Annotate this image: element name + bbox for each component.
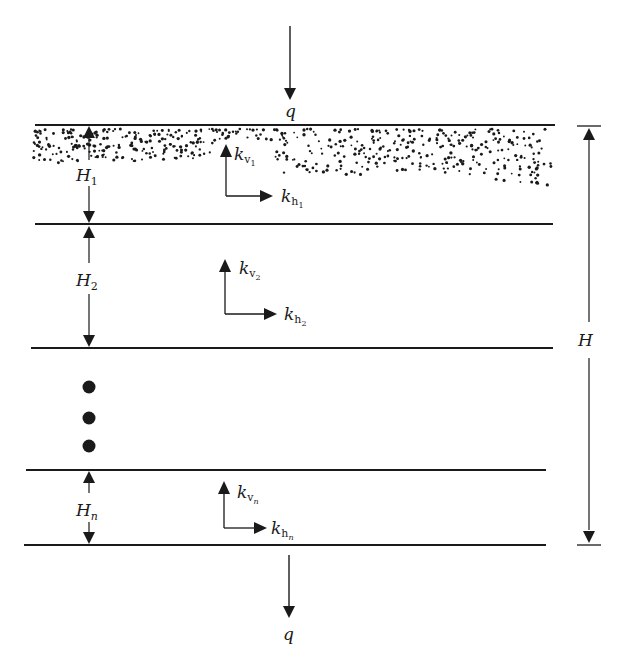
layern-thickness-label: Hn <box>75 500 98 523</box>
inflow-arrow <box>284 26 296 100</box>
layern-kh-label: khn <box>271 518 294 542</box>
outflow-label: q <box>283 624 294 644</box>
outflow-arrow <box>283 555 295 618</box>
inflow-label: q <box>285 101 296 121</box>
layer2-kh-label: kh2 <box>284 304 307 328</box>
layern-kv-label: kvn <box>237 482 259 506</box>
total-thickness-label: H <box>577 330 594 350</box>
layer1-kh-label: kh1 <box>281 186 304 210</box>
layer1-thickness-label: H1 <box>75 165 98 188</box>
layered-soil-diagram: q H1 kv1 kh1 H2 <box>0 0 623 670</box>
layer1-kv-label: kv1 <box>234 144 256 168</box>
ellipsis-dots-icon <box>83 381 96 453</box>
layer2-thickness-label: H2 <box>75 270 98 293</box>
layer2-kv-label: kv2 <box>239 258 261 282</box>
sand-fill-pattern <box>32 128 552 187</box>
